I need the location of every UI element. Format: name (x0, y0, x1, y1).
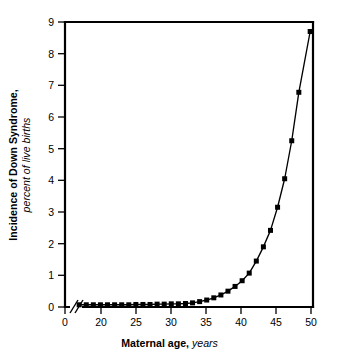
data-point (211, 295, 216, 300)
data-point (162, 302, 167, 307)
data-point (289, 138, 294, 143)
y-tick-label-9: 9 (48, 16, 54, 28)
series-line-path (79, 32, 310, 305)
series-markers (77, 29, 313, 307)
x-axis-title: Maternal age, years (121, 337, 218, 349)
chart-figure: 0 1 2 3 4 5 6 7 8 9 0 20 25 30 (0, 0, 338, 357)
data-point (77, 302, 82, 307)
x-tick-label-0: 0 (62, 316, 68, 328)
data-point (98, 302, 103, 307)
data-point (268, 228, 273, 233)
x-axis-title-bold: Maternal age, (121, 337, 189, 349)
x-tick-label-45: 45 (270, 316, 282, 328)
data-point (126, 302, 131, 307)
data-point (148, 302, 153, 307)
x-tick-label-20: 20 (95, 316, 107, 328)
data-point (275, 205, 280, 210)
data-point (133, 302, 138, 307)
y-axis-tick-labels: 0 1 2 3 4 5 6 7 8 9 (48, 16, 54, 313)
y-axis-title-italic: percent of live births (20, 117, 32, 214)
data-point (197, 299, 202, 304)
data-point (247, 271, 252, 276)
y-tick-label-2: 2 (48, 238, 54, 250)
y-tick-label-6: 6 (48, 111, 54, 123)
down-syndrome-incidence-chart: 0 1 2 3 4 5 6 7 8 9 0 20 25 30 (0, 0, 338, 357)
data-point (169, 301, 174, 306)
y-axis-title-bold: Incidence of Down Syndrome, (7, 89, 19, 240)
y-tick-label-5: 5 (48, 143, 54, 155)
data-point (105, 302, 110, 307)
x-tick-label-35: 35 (200, 316, 212, 328)
data-point (296, 90, 301, 95)
y-tick-label-0: 0 (48, 301, 54, 313)
y-axis-title: Incidence of Down Syndrome, percent of l… (7, 89, 32, 240)
data-point (155, 302, 160, 307)
data-point (91, 302, 96, 307)
x-tick-label-30: 30 (165, 316, 177, 328)
data-point (204, 298, 209, 303)
data-point (119, 302, 124, 307)
data-point (176, 301, 181, 306)
data-point (218, 292, 223, 297)
y-tick-label-7: 7 (48, 79, 54, 91)
y-tick-label-8: 8 (48, 48, 54, 60)
data-point (282, 176, 287, 181)
data-point (84, 302, 89, 307)
axis-frame (65, 22, 313, 307)
data-series-incidence (77, 29, 313, 307)
data-point (112, 302, 117, 307)
data-point (233, 284, 238, 289)
x-tick-label-50: 50 (305, 316, 317, 328)
data-point (308, 29, 313, 34)
data-point (254, 259, 259, 264)
data-point (240, 278, 245, 283)
y-tick-label-3: 3 (48, 206, 54, 218)
data-point (183, 301, 188, 306)
x-tick-label-25: 25 (130, 316, 142, 328)
data-point (261, 244, 266, 249)
x-axis-title-italic: years (191, 337, 219, 349)
x-tick-label-40: 40 (235, 316, 247, 328)
y-tick-label-4: 4 (48, 174, 54, 186)
data-point (190, 300, 195, 305)
x-axis-tick-labels: 0 20 25 30 35 40 45 50 (62, 316, 317, 328)
data-point (225, 289, 230, 294)
y-tick-label-1: 1 (48, 269, 54, 281)
data-point (140, 302, 145, 307)
